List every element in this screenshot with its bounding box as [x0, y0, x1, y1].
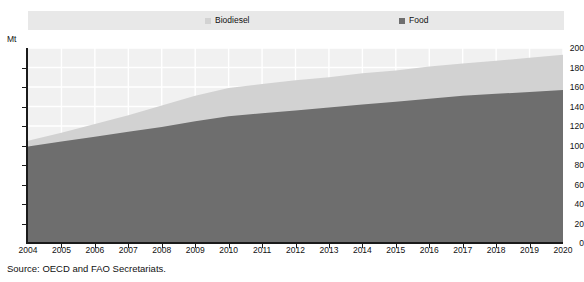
y-axis-tick-mark — [22, 126, 26, 127]
x-axis-tick-mark — [396, 244, 397, 248]
y-axis-tick-label: 120 — [560, 122, 584, 131]
y-axis-tick-label: 200 — [560, 44, 584, 53]
legend-item-food: Food — [399, 16, 428, 25]
x-axis-tick-mark — [530, 244, 531, 248]
y-axis-tick-mark — [22, 204, 26, 205]
y-axis-tick-label: 20 — [560, 220, 584, 229]
chart-plot-wrapper: Mt 020406080100120140160180200 200420052… — [0, 34, 584, 256]
y-axis-tick-mark — [22, 107, 26, 108]
stacked-area-chart-svg — [28, 48, 563, 243]
x-axis-tick-mark — [362, 244, 363, 248]
chart-legend: Biodiesel Food — [28, 11, 564, 30]
y-axis-tick-mark — [22, 165, 26, 166]
legend-swatch-biodiesel — [205, 18, 211, 24]
x-axis-tick-mark — [128, 244, 129, 248]
chart-area-layers — [28, 55, 563, 243]
y-axis-tick-mark — [22, 68, 26, 69]
y-axis-tick-mark — [22, 224, 26, 225]
y-axis-tick-label: 180 — [560, 64, 584, 73]
x-axis-tick-label: 2004 — [10, 246, 46, 255]
x-axis-tick-mark — [229, 244, 230, 248]
y-axis-tick-label: 160 — [560, 83, 584, 92]
legend-label-biodiesel: Biodiesel — [215, 16, 250, 25]
source-note: Source: OECD and FAO Secretariats. — [7, 263, 166, 274]
x-axis-tick-label: 2020 — [545, 246, 581, 255]
y-axis-tick-label: 100 — [560, 142, 584, 151]
legend-swatch-food — [399, 18, 405, 24]
y-axis-tick-label: 40 — [560, 200, 584, 209]
x-axis-line — [26, 242, 563, 244]
x-axis-tick-mark — [162, 244, 163, 248]
y-axis-tick-mark — [22, 185, 26, 186]
y-axis-tick-mark — [22, 87, 26, 88]
x-axis-tick-mark — [195, 244, 196, 248]
y-axis-tick-label: 140 — [560, 103, 584, 112]
x-axis-tick-mark — [429, 244, 430, 248]
legend-item-biodiesel: Biodiesel — [205, 16, 250, 25]
y-axis-tick-mark — [22, 146, 26, 147]
x-axis-tick-mark — [329, 244, 330, 248]
chart-plot-area — [28, 48, 563, 243]
x-axis-tick-mark — [296, 244, 297, 248]
legend-label-food: Food — [409, 16, 428, 25]
y-axis-tick-label: 80 — [560, 161, 584, 170]
y-axis-unit-label: Mt — [7, 34, 16, 44]
area-food — [28, 90, 563, 243]
x-axis-tick-mark — [61, 244, 62, 248]
y-axis-line — [26, 48, 28, 244]
y-axis-tick-label: 60 — [560, 181, 584, 190]
x-axis-tick-mark — [496, 244, 497, 248]
x-axis-tick-mark — [463, 244, 464, 248]
x-axis-tick-mark — [262, 244, 263, 248]
x-axis-tick-mark — [95, 244, 96, 248]
